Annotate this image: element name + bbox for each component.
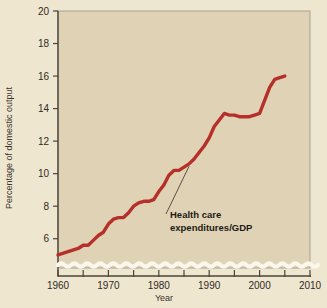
annotation-label-line2: expenditures/GDP <box>170 222 253 233</box>
x-tick-label-1980: 1980 <box>148 280 171 291</box>
chart-figure: 68101214161820 196019701980199020002010 … <box>0 0 327 308</box>
y-tick-label-16: 16 <box>38 71 50 82</box>
x-tick-label-2000: 2000 <box>248 280 271 291</box>
x-tick-label-2010: 2010 <box>299 280 322 291</box>
y-tick-label-18: 18 <box>38 38 50 49</box>
y-tick-label-14: 14 <box>38 103 50 114</box>
axis-break-wave <box>58 263 318 266</box>
y-tick-label-6: 6 <box>43 233 49 244</box>
y-tick-label-20: 20 <box>38 6 50 17</box>
x-tick-label-1990: 1990 <box>198 280 221 291</box>
x-tick-label-1970: 1970 <box>97 280 120 291</box>
x-tick-label-1960: 1960 <box>47 280 70 291</box>
y-axis-title: Percentage of domestic output <box>4 86 14 209</box>
y-tick-label-12: 12 <box>38 136 50 147</box>
chart-canvas: 68101214161820 196019701980199020002010 … <box>0 0 327 308</box>
y-tick-label-8: 8 <box>43 201 49 212</box>
x-axis-title: Year <box>155 293 173 303</box>
y-tick-label-10: 10 <box>38 168 50 179</box>
annotation-label-line1: Health care <box>170 209 221 220</box>
